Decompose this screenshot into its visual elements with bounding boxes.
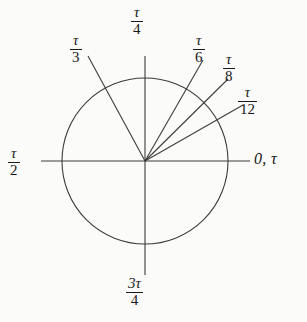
label-tau-over-4-numerator: τ bbox=[131, 5, 143, 22]
label-tau-over-6: τ 6 bbox=[193, 33, 205, 65]
ray-tau-over-3 bbox=[88, 56, 145, 161]
label-tau-over-3-numerator: τ bbox=[70, 33, 82, 50]
label-zero-tau-text: 0, τ bbox=[254, 150, 277, 167]
ray-tau-over-12 bbox=[145, 105, 243, 161]
label-tau-over-6-denominator: 6 bbox=[193, 50, 205, 66]
ray-tau-over-6 bbox=[145, 60, 203, 161]
label-tau-over-12-denominator: 12 bbox=[238, 102, 257, 118]
label-tau-over-4: τ 4 bbox=[131, 5, 143, 37]
label-tau-over-2-numerator: τ bbox=[8, 146, 20, 163]
label-tau-over-2: τ 2 bbox=[8, 146, 20, 178]
label-tau-over-8: τ 8 bbox=[223, 52, 235, 84]
label-tau-over-12: τ 12 bbox=[238, 85, 257, 117]
label-zero-tau: 0, τ bbox=[254, 150, 277, 167]
label-tau-over-2-denominator: 2 bbox=[8, 163, 20, 179]
label-tau-over-8-denominator: 8 bbox=[223, 69, 235, 85]
label-tau-over-6-numerator: τ bbox=[193, 33, 205, 50]
label-tau-over-8-numerator: τ bbox=[223, 52, 235, 69]
label-three-tau-over-4-numerator: 3τ bbox=[126, 276, 143, 293]
label-tau-over-3-denominator: 3 bbox=[70, 50, 82, 66]
label-three-tau-over-4-denominator: 4 bbox=[126, 293, 143, 309]
label-tau-over-3: τ 3 bbox=[70, 33, 82, 65]
label-tau-over-12-numerator: τ bbox=[238, 85, 257, 102]
label-three-tau-over-4: 3τ 4 bbox=[126, 276, 143, 308]
tau-circle-figure: τ 4 3τ 4 τ 2 0, τ τ 3 τ 6 bbox=[0, 0, 307, 322]
label-tau-over-4-denominator: 4 bbox=[131, 22, 143, 38]
ray-tau-over-8 bbox=[145, 79, 228, 161]
